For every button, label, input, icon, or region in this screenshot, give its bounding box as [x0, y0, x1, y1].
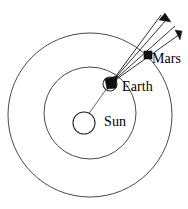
orbital-diagram: Sun Earth Mars	[0, 0, 188, 209]
arrow-head-2	[175, 30, 182, 40]
label-earth: Earth	[122, 80, 153, 94]
label-mars: Mars	[152, 52, 181, 66]
arrow-head-1	[159, 13, 171, 22]
diagram-canvas	[0, 0, 188, 209]
mars-body	[144, 51, 152, 59]
sun-body	[73, 112, 95, 134]
label-sun: Sun	[104, 115, 126, 129]
sight-ray-3	[110, 15, 161, 84]
